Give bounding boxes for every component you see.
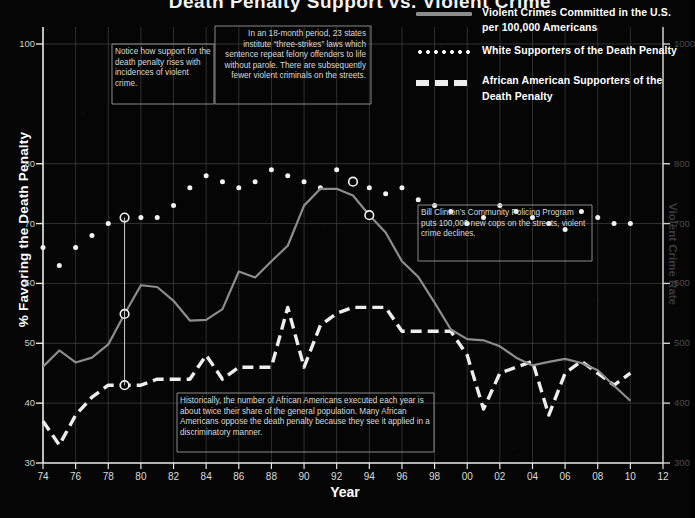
y-tick-label: 50 (11, 337, 35, 348)
x-tick-label: 88 (260, 471, 282, 482)
data-point (367, 185, 372, 190)
x-tick-label: 80 (130, 471, 152, 482)
data-point (595, 215, 600, 220)
data-point (73, 245, 78, 250)
x-tick-label: 86 (228, 471, 250, 482)
x-tick-label: 76 (65, 471, 87, 482)
data-point (204, 173, 209, 178)
data-point (106, 221, 111, 226)
x-tick-label: 00 (456, 471, 478, 482)
data-point (220, 179, 225, 184)
right-y-tick-label: 400 (674, 397, 690, 408)
data-point (171, 203, 176, 208)
legend-swatch-dashed-icon (416, 73, 474, 95)
x-tick-label: 98 (424, 471, 446, 482)
data-point (269, 167, 274, 172)
annotation-three-strikes: In an 18-month period, 23 states institu… (218, 29, 366, 82)
data-point (41, 245, 46, 250)
y-axis-title: % Favoring the Death Penalty (16, 120, 31, 340)
right-y-tick-label: 500 (674, 337, 690, 348)
x-tick-label: 08 (587, 471, 609, 482)
data-point (138, 215, 143, 220)
x-tick-label: 78 (97, 471, 119, 482)
x-tick-label: 92 (326, 471, 348, 482)
x-tick-label: 82 (163, 471, 185, 482)
data-point (612, 221, 617, 226)
data-point (236, 185, 241, 190)
legend-item-white[interactable]: White Supporters of the Death Penalty (416, 43, 684, 65)
annotation-crime-support: Notice how support for the death penalty… (115, 47, 211, 89)
right-y-tick-label: 700 (674, 218, 690, 229)
right-y-tick-label: 800 (674, 158, 690, 169)
y-tick-label: 80 (11, 158, 35, 169)
data-point (89, 233, 94, 238)
x-tick-label: 74 (32, 471, 54, 482)
data-point (285, 173, 290, 178)
legend-swatch-solid-icon (416, 5, 474, 27)
x-tick-label: 90 (293, 471, 315, 482)
y-tick-label: 60 (11, 277, 35, 288)
legend-label: White Supporters of the Death Penalty (482, 43, 677, 58)
data-point (416, 197, 421, 202)
data-point (399, 185, 404, 190)
data-point (57, 263, 62, 268)
legend-label: Violent Crimes Committed in the U.S. per… (482, 5, 684, 35)
x-tick-label: 06 (554, 471, 576, 482)
marker-dot (349, 177, 358, 186)
x-tick-label: 12 (652, 471, 674, 482)
right-y-tick-label: 600 (674, 277, 690, 288)
y-tick-label: 70 (11, 218, 35, 229)
legend-item-black[interactable]: African American Supporters of the Death… (416, 73, 684, 103)
chart-legend: Violent Crimes Committed in the U.S. per… (416, 5, 684, 112)
data-point (628, 221, 633, 226)
data-point (187, 185, 192, 190)
x-tick-label: 02 (489, 471, 511, 482)
right-y-tick-label: 300 (674, 457, 690, 468)
data-point (155, 215, 160, 220)
legend-swatch-dotted-icon (416, 43, 474, 65)
x-tick-label: 96 (391, 471, 413, 482)
annotation-executions-disparity: Historically, the number of African Amer… (180, 396, 430, 438)
data-point (253, 179, 258, 184)
x-axis-title: Year (0, 484, 690, 500)
right-y-axis-title: Violent Crime Rate (667, 159, 679, 349)
x-tick-label: 84 (195, 471, 217, 482)
annotation-community-policing: Bill Clinton’s Community Policing Progra… (421, 208, 589, 240)
x-tick-label: 94 (358, 471, 380, 482)
data-point (302, 179, 307, 184)
y-tick-label: 30 (11, 457, 35, 468)
y-tick-label: 40 (11, 397, 35, 408)
y-tick-label: 100 (11, 38, 35, 49)
legend-label: African American Supporters of the Death… (482, 73, 684, 103)
data-point (334, 167, 339, 172)
marker-dot (365, 211, 374, 220)
x-tick-label: 10 (619, 471, 641, 482)
x-tick-label: 04 (521, 471, 543, 482)
data-point (383, 191, 388, 196)
legend-item-violent[interactable]: Violent Crimes Committed in the U.S. per… (416, 5, 684, 35)
